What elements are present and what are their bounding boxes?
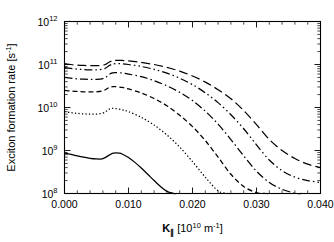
x-axis-title: K∥ [1010 m-1]	[162, 221, 223, 237]
curve-long-dash	[65, 60, 321, 167]
x-tick-label: 0.040	[307, 198, 333, 210]
y-tick-label: 1011	[38, 57, 57, 71]
y-tick-label: 109	[42, 143, 58, 157]
x-tick-label: 0.030	[243, 198, 269, 210]
labels-group: 0.0000.0100.0200.0300.040108109101010111…	[4, 14, 334, 238]
curve-solid	[65, 153, 177, 194]
figure-container: 0.0000.0100.0200.0300.040108109101010111…	[0, 0, 334, 242]
exciton-formation-rate-chart: 0.0000.0100.0200.0300.040108109101010111…	[0, 0, 334, 242]
curve-dash-dot-dot	[65, 64, 321, 183]
y-axis-title: Exciton formation rate [s-1]	[4, 43, 17, 171]
curves-group	[65, 60, 321, 193]
curve-dotted	[65, 108, 231, 193]
plot-frame	[65, 22, 321, 194]
y-tick-label: 1010	[37, 100, 57, 114]
curve-short-dash	[65, 87, 270, 194]
curve-dash-dot	[65, 73, 302, 194]
x-tick-label: 0.010	[115, 198, 141, 210]
x-tick-label: 0.000	[51, 198, 77, 210]
x-tick-label: 0.020	[179, 198, 205, 210]
axes-group	[65, 22, 321, 194]
y-tick-label: 1012	[37, 14, 57, 28]
